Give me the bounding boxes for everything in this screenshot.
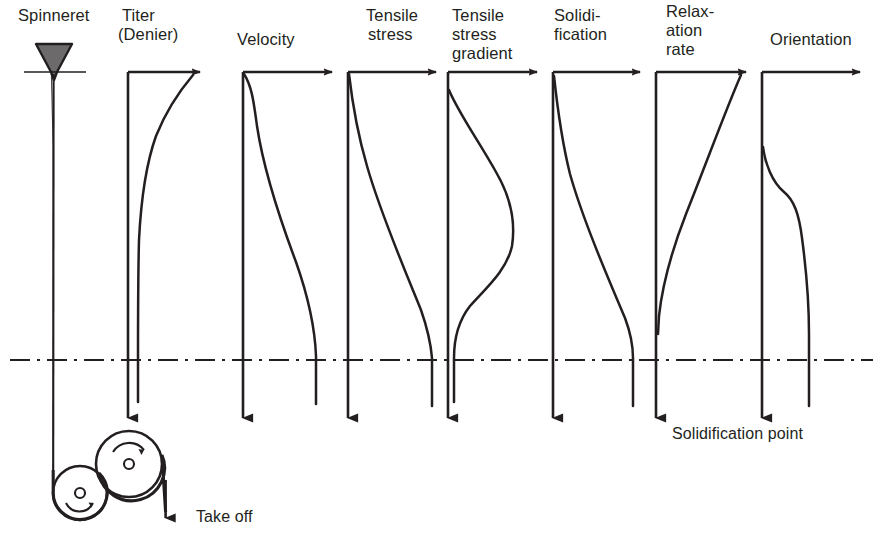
panel-label-titer-line2: (Denier) [118,25,178,44]
takeoff-group [53,431,166,520]
titer-curve [138,75,193,402]
panel-label-gradient-line3: gradient [452,44,512,63]
panel-orientation [762,72,860,418]
godet-roller-right-hub [124,459,134,469]
godet-roller-left-hub [75,488,85,498]
panel-label-relaxation-line3: rate [666,40,695,59]
panel-label-gradient-line1: Tensile [452,6,504,25]
velocity-curve [244,74,316,404]
relaxation-rate-curve [658,75,741,334]
panel-label-solidification-line2: fication [554,25,607,44]
godet-roller-left-spin-arrow-icon [66,503,93,511]
panel-label-relaxation-line2: ation [666,21,702,40]
panel-label-relaxation-line1: Relax- [666,2,714,21]
panel-label-titer-line1: Titer [122,6,155,25]
takeoff-label: Take off [196,507,253,526]
panel-label-gradient-line2: stress [452,25,497,44]
panel-label-tensile-stress-line2: stress [368,25,413,44]
panel-tensile-stress [348,72,436,418]
panel-titer [128,72,200,418]
orientation-curve [763,147,809,406]
panel-label-orientation: Orientation [770,30,852,49]
panel-label-tensile-stress-line1: Tensile [366,6,418,25]
panel-tensile-stress-gradient [448,72,537,418]
spinline-diagram [0,0,883,559]
panel-velocity [243,72,332,418]
panel-solidification [553,72,640,418]
tensile-stress-curve [349,74,432,406]
solidification-curve [554,76,633,406]
panel-label-velocity: Velocity [237,30,295,49]
spinneret-label: Spinneret [18,6,90,25]
godet-roller-right-spin-arrowhead-icon [139,449,145,455]
tensile-stress-gradient-curve [449,90,513,402]
spinneret-group [24,44,86,470]
solidification-point-label: Solidification point [672,424,803,443]
figure-root: Spinneret Titer (Denier) Velocity Tensil… [0,0,883,559]
panel-label-solidification-line1: Solidi- [554,6,601,25]
panel-relaxation-rate [656,72,746,418]
